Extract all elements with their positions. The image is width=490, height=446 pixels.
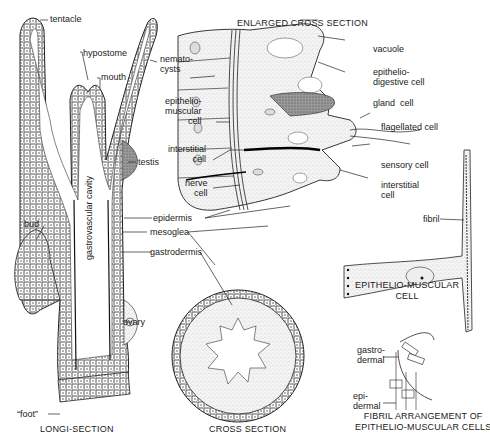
caption-cross-section: CROSS SECTION (209, 424, 286, 435)
label-mesoglea: mesoglea (150, 227, 189, 237)
label-nerve-cell: nerve cell (185, 178, 208, 198)
label-hypostome: hypostome (83, 48, 127, 58)
label-sensory-cell: sensory cell (381, 160, 429, 170)
label-epidermal: epi- dermal (353, 391, 381, 411)
label-mouth: mouth (101, 72, 126, 82)
caption-epithelio-muscular-cell: EPITHELIO-MUSCULAR CELL (355, 280, 459, 302)
label-testis: testis (138, 157, 159, 167)
caption-longi-section: LONGI-SECTION (40, 424, 114, 435)
label-epidermis: epidermis (153, 213, 192, 223)
fibril-arrangement-drawing (390, 333, 434, 410)
label-gastrodermis: gastrodermis (150, 247, 202, 257)
cross-section-drawing (172, 290, 304, 422)
label-nematocysts: nemato- cysts (160, 54, 193, 74)
caption-fibril-arrangement: FIBRIL ARRANGEMENT OF EPITHELIO-MUSCULAR… (355, 411, 490, 433)
label-gastrodermal: gastro- dermal (357, 345, 385, 365)
label-interstitial-cell-right: interstitial cell (381, 180, 419, 200)
label-foot: “foot” (17, 409, 38, 419)
label-interstitial-cell-left: interstitial cell (168, 144, 206, 164)
label-epithelio-digestive-cell: epithelio- digestive cell (373, 67, 425, 87)
label-ovary: ovary (123, 317, 145, 327)
caption-enlarged-cross-section: ENLARGED CROSS SECTION (237, 18, 368, 29)
label-epithelio-muscular-cell: epithelio- muscular cell (165, 96, 202, 126)
label-tentacle: tentacle (50, 14, 82, 24)
label-flagellated-cell: flagellated cell (381, 122, 438, 132)
epithelio-muscular-cell-drawing (344, 150, 472, 332)
label-fibril: fibril (423, 214, 440, 224)
hydra-anatomy-figure: tentacle hypostome mouth nemato- cysts g… (0, 0, 490, 446)
label-gland-cell: gland cell (373, 98, 414, 108)
label-vacuole: vacuole (373, 44, 404, 54)
label-bud: bud (24, 219, 39, 229)
label-gastrovascular-cavity: gastrovascular cavity (84, 176, 94, 260)
